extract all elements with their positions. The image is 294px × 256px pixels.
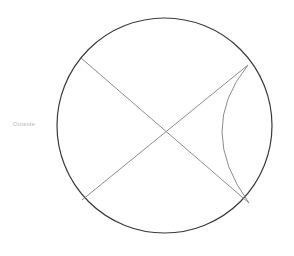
geometry-diagram bbox=[0, 0, 294, 256]
figure-canvas: Outside bbox=[0, 0, 294, 256]
outside-label: Outside bbox=[13, 120, 35, 128]
diagram-background bbox=[0, 0, 294, 256]
